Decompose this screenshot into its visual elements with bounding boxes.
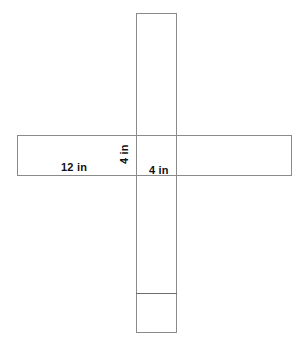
flap-fold-line	[136, 293, 177, 294]
intersection-edge-right	[176, 135, 177, 176]
net-diagram-canvas: 12 in 4 in 4 in	[0, 0, 302, 349]
intersection-edge-left	[136, 135, 137, 176]
dimension-label-height: 4 in	[119, 150, 130, 164]
dimension-label-width: 12 in	[61, 162, 87, 173]
dimension-label-depth: 4 in	[149, 165, 169, 176]
